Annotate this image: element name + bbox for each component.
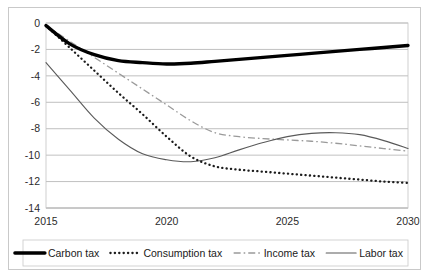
y-axis-tick-label: -2	[31, 43, 40, 55]
chart-plot-area: 0-2-4-6-8-10-12-14 2015202020252030 Carb…	[9, 8, 422, 271]
y-axis-tick-label: -10	[25, 149, 40, 161]
y-axis-tick-label: -12	[25, 175, 40, 187]
legend-label-income-tax: Income tax	[264, 247, 316, 259]
y-axis-tick-label: -14	[25, 202, 40, 214]
y-axis-tick-label: -4	[31, 70, 40, 82]
x-axis-tick-label: 2020	[155, 215, 179, 227]
x-axis-tick-label: 2025	[276, 215, 300, 227]
series-line-carbon-tax	[46, 26, 408, 64]
series-line-income-tax	[46, 26, 408, 152]
chart-legend: Carbon taxConsumption taxIncome taxLabor…	[15, 240, 408, 266]
x-axis-tick-label: 2030	[396, 215, 420, 227]
x-axis-tick-labels: 2015202020252030	[34, 215, 420, 227]
chart-figure: 0-2-4-6-8-10-12-14 2015202020252030 Carb…	[8, 7, 421, 270]
line-chart-svg: 0-2-4-6-8-10-12-14 2015202020252030 Carb…	[9, 8, 422, 271]
y-axis-tick-label: 0	[34, 17, 40, 29]
legend-label-consumption-tax: Consumption tax	[143, 247, 223, 259]
y-axis-tick-label: -8	[31, 122, 40, 134]
y-axis-tick-labels: 0-2-4-6-8-10-12-14	[25, 17, 40, 214]
legend-label-labor-tax: Labor tax	[359, 247, 404, 259]
y-axis-tick-label: -6	[31, 96, 40, 108]
legend-label-carbon-tax: Carbon tax	[48, 247, 100, 259]
x-axis-tick-label: 2015	[34, 215, 58, 227]
